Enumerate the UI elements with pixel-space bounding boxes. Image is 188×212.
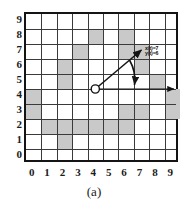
y-axis-tick-7: 7: [2, 42, 22, 57]
y-axis-tick-2: 2: [2, 117, 22, 132]
robot-position-marker: [91, 85, 99, 93]
x-axis-labels: 0123456789: [24, 164, 178, 180]
state-annotation-group: x(t)=7 y(t)=6: [145, 46, 187, 57]
x-axis-tick-1: 1: [39, 164, 54, 180]
x-axis-tick-7: 7: [132, 164, 147, 180]
y-axis-tick-4: 4: [2, 87, 22, 102]
x-axis-tick-2: 2: [55, 164, 70, 180]
x-axis-tick-3: 3: [70, 164, 85, 180]
occupancy-grid-figure: 9876543210 x(t)=7 y(: [0, 0, 188, 212]
x-axis-tick-9: 9: [163, 164, 178, 180]
y-axis-tick-3: 3: [2, 102, 22, 117]
heading-angle-arc: [130, 60, 135, 85]
robot-overlay: [26, 14, 180, 164]
y-axis-tick-8: 8: [2, 27, 22, 42]
x-axis-tick-0: 0: [24, 164, 39, 180]
x-axis-tick-5: 5: [101, 164, 116, 180]
grid-plot-area: [24, 12, 178, 162]
x-axis-tick-4: 4: [86, 164, 101, 180]
state-y-label: y(t)=6: [145, 51, 187, 56]
y-axis-tick-6: 6: [2, 57, 22, 72]
x-axis-tick-8: 8: [147, 164, 162, 180]
y-axis-tick-9: 9: [2, 12, 22, 27]
figure-caption: (a): [0, 184, 188, 200]
y-axis-labels: 9876543210: [2, 12, 22, 162]
y-axis-tick-5: 5: [2, 72, 22, 87]
x-axis-tick-6: 6: [116, 164, 131, 180]
y-axis-tick-1: 1: [2, 132, 22, 147]
y-axis-tick-0: 0: [2, 147, 22, 162]
